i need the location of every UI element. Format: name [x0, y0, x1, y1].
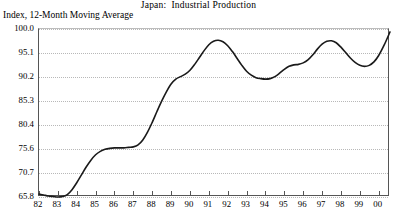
gridline — [39, 197, 388, 198]
y-axis-tick-label: 100.0 — [0, 23, 34, 33]
chart-container: Japan: Industrial Production Index, 12-M… — [0, 0, 397, 215]
y-axis-tick-label: 85.3 — [0, 95, 34, 105]
y-axis-tick-label: 90.2 — [0, 71, 34, 81]
series-line-industrial-production — [39, 29, 390, 197]
x-axis-tick-label: 00 — [367, 199, 389, 209]
y-axis-tick-label: 80.4 — [0, 119, 34, 129]
y-axis-tick-label: 70.7 — [0, 167, 34, 177]
y-axis-tick-label: 75.6 — [0, 143, 34, 153]
y-axis-tick-label: 95.1 — [0, 47, 34, 57]
plot-area — [38, 28, 389, 196]
